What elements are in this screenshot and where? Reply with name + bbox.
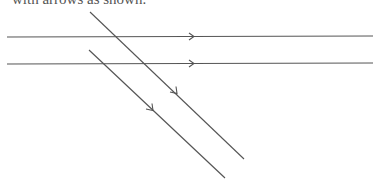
diagonal-line-1: [90, 12, 244, 159]
horizontal-line-2: [7, 63, 373, 64]
diagonal-line-2: [89, 50, 225, 178]
parallel-lines-diagram: [0, 0, 381, 186]
horizontal-line-1: [7, 36, 373, 37]
